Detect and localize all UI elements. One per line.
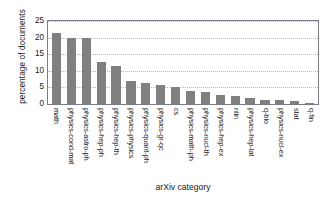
x-tick-label: physics-hep-lat <box>246 108 255 156</box>
bar-slot <box>272 21 287 104</box>
bar <box>156 85 165 104</box>
bar <box>201 92 210 104</box>
x-tick-label: physics-physics <box>126 108 135 158</box>
y-tick-label: 5 <box>20 82 44 91</box>
bar-slot <box>138 21 153 104</box>
x-tick-label: physics-nucl-th <box>201 108 210 156</box>
x-tick-label: math <box>51 108 60 124</box>
bar-slot <box>198 21 213 104</box>
bar-slot <box>49 21 64 104</box>
x-tick-label: nlin <box>231 108 240 119</box>
plot-area <box>47 20 319 105</box>
x-tick-label: physics-hep-ph <box>96 108 105 157</box>
bar <box>52 33 61 104</box>
bar <box>141 83 150 104</box>
bar-slot <box>228 21 243 104</box>
x-tick-label: physics-cond-mat <box>66 108 75 164</box>
x-tick-slot: physics-astro-ph <box>78 106 93 176</box>
y-tick-label: 0 <box>20 99 44 108</box>
y-tick-label: 20 <box>20 32 44 41</box>
bar-slot <box>79 21 94 104</box>
bar-slot <box>213 21 228 104</box>
bar <box>231 96 240 104</box>
bar-slot <box>302 21 317 104</box>
bar-slot <box>123 21 138 104</box>
bar-slot <box>287 21 302 104</box>
x-tick-slot: q-fin <box>303 106 318 176</box>
bar <box>245 98 254 104</box>
x-tick-slot: physics-gr-qc <box>153 106 168 176</box>
x-tick-label: physics-nucl-ex <box>276 108 285 157</box>
x-tick-slot: physics-quant-ph <box>138 106 153 176</box>
bar <box>290 101 299 104</box>
bar <box>186 91 195 104</box>
x-tick-label: physics-hep-ex <box>216 108 225 156</box>
x-axis-tick-labels: mathphysics-cond-matphysics-astro-phphys… <box>47 106 319 176</box>
x-tick-slot: physics-math-ph <box>183 106 198 176</box>
x-axis-label: arXiv category <box>47 182 319 192</box>
bar-chart-figure: percentage of documents 0510152025 mathp… <box>0 0 332 211</box>
x-tick-label: physics-math-ph <box>186 108 195 161</box>
bar <box>275 100 284 104</box>
x-tick-slot: physics-hep-lat <box>243 106 258 176</box>
bar <box>97 62 106 104</box>
bar-slot <box>243 21 258 104</box>
x-tick-slot: physics-nucl-th <box>198 106 213 176</box>
y-tick-label: 10 <box>20 65 44 74</box>
bar <box>171 87 180 104</box>
y-tick-label: 25 <box>20 16 44 25</box>
bar <box>305 103 314 104</box>
bar-slot <box>168 21 183 104</box>
bar-slot <box>109 21 124 104</box>
bar-slot <box>64 21 79 104</box>
x-tick-label: physics-gr-qc <box>156 108 165 151</box>
x-tick-label: q-fin <box>306 108 315 122</box>
bar-slot <box>153 21 168 104</box>
bar <box>216 95 225 104</box>
x-tick-slot: physics-nucl-ex <box>273 106 288 176</box>
x-tick-label: q-bio <box>261 108 270 124</box>
x-tick-slot: physics-hep-ex <box>213 106 228 176</box>
x-tick-slot: physics-cond-mat <box>63 106 78 176</box>
x-tick-slot: stat <box>288 106 303 176</box>
bar <box>82 38 91 104</box>
x-tick-slot: physics-hep-ph <box>93 106 108 176</box>
bar <box>111 66 120 104</box>
y-axis-tick-labels: 0510152025 <box>20 0 44 211</box>
bar-slot <box>183 21 198 104</box>
x-tick-slot: nlin <box>228 106 243 176</box>
bar <box>126 81 135 104</box>
x-tick-slot: cs <box>168 106 183 176</box>
bar-series <box>48 21 318 104</box>
x-tick-slot: physics-physics <box>123 106 138 176</box>
bar-slot <box>94 21 109 104</box>
bar-slot <box>257 21 272 104</box>
x-tick-label: stat <box>291 108 300 120</box>
x-tick-slot: q-bio <box>258 106 273 176</box>
x-tick-label: physics-astro-ph <box>81 108 90 161</box>
x-tick-slot: physics-hep-th <box>108 106 123 176</box>
bar <box>260 100 269 104</box>
x-tick-label: physics-hep-th <box>111 108 120 155</box>
x-tick-label: physics-quant-ph <box>141 108 150 163</box>
x-tick-label: cs <box>171 108 180 115</box>
y-tick-label: 15 <box>20 49 44 58</box>
bar <box>67 38 76 104</box>
x-tick-slot: math <box>48 106 63 176</box>
